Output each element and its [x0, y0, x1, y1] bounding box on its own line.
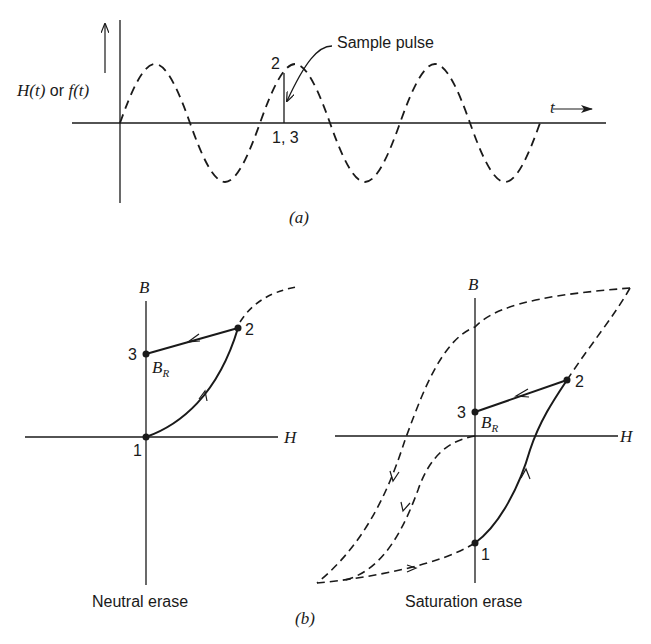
f-of-t-label: f(t) [68, 81, 89, 100]
neutral-path-2-to-3 [146, 328, 238, 354]
saturation-remanence-label: BR [481, 414, 498, 431]
neutral-point-2 [235, 325, 242, 332]
saturation-br-subscript: R [491, 422, 498, 434]
panel-a-points-1-3-label: 1, 3 [272, 130, 299, 146]
neutral-point-1 [143, 434, 150, 441]
neutral-path-1-to-2 [146, 328, 238, 437]
saturation-point-3 [472, 409, 479, 416]
neutral-br-subscript: R [162, 367, 169, 379]
neutral-h-axis-label: H [284, 429, 296, 446]
saturation-h-axis-label: H [620, 428, 632, 445]
panel-b-caption: (b) [295, 610, 315, 627]
neutral-point-3 [143, 351, 150, 358]
saturation-point-1-label: 1 [481, 547, 490, 563]
saturation-arrow-down-left-2-icon [401, 502, 410, 511]
neutral-erase-title: Neutral erase [92, 594, 188, 610]
saturation-erase-title: Saturation erase [405, 594, 522, 610]
saturation-b-axis-label: B [468, 276, 478, 293]
panel-a-y-axis-label: H(t) or f(t) [17, 82, 89, 99]
saturation-minor-descending [345, 436, 475, 580]
neutral-dashed-saturation-curve [240, 287, 296, 322]
sample-pulse-leader-arrow-icon [287, 46, 332, 101]
or-label: or [45, 82, 68, 99]
figure-canvas [0, 0, 651, 644]
saturation-br-main: B [481, 413, 491, 432]
panel-a-t-label: t [550, 99, 555, 116]
sample-pulse-label: Sample pulse [337, 35, 434, 51]
neutral-remanence-label: BR [152, 359, 169, 376]
saturation-point-1 [472, 540, 479, 547]
saturation-bottom-return [317, 543, 475, 583]
neutral-erase-plot [25, 287, 296, 585]
h-of-t-label: H(t) [17, 81, 45, 100]
panel-a-caption: (a) [289, 209, 309, 226]
neutral-point-2-label: 2 [245, 322, 254, 338]
saturation-point-2 [564, 377, 571, 384]
saturation-point-2-label: 2 [575, 374, 584, 390]
panel-a-point-2-label: 2 [271, 56, 280, 72]
saturation-path-1-to-2 [475, 380, 567, 543]
neutral-br-main: B [152, 358, 162, 377]
saturation-point-3-label: 3 [457, 405, 466, 421]
neutral-b-axis-label: B [139, 279, 149, 296]
neutral-point-1-label: 1 [133, 443, 142, 459]
saturation-major-loop-ascending [567, 288, 630, 380]
neutral-point-3-label: 3 [128, 347, 137, 363]
saturation-erase-plot [317, 288, 630, 583]
